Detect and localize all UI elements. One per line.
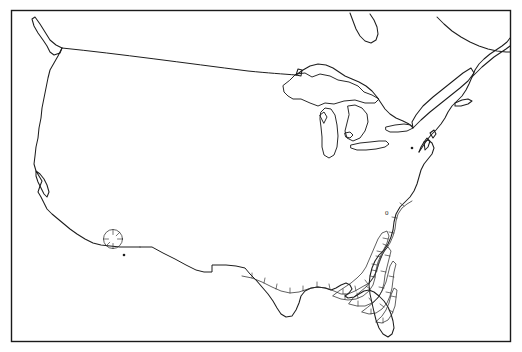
marker-ohio-valley (411, 147, 414, 150)
marker-southwest (123, 254, 126, 257)
contour-map-figure: 0 (0, 0, 522, 352)
map-frame (12, 11, 511, 342)
map-svg: 0 (0, 0, 522, 352)
isoline-label-zero: 0 (385, 209, 389, 217)
